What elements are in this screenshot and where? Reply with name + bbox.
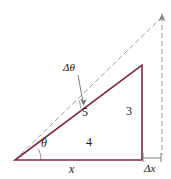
- label-theta: θ: [41, 137, 47, 149]
- label-hypotenuse-length: 5: [82, 106, 88, 118]
- geometry-figure: Δθ 5 3 θ 4 x Δx: [0, 0, 171, 179]
- theta-arc: [39, 149, 41, 160]
- label-x: x: [69, 163, 74, 175]
- delta-theta-arc: [79, 101, 81, 109]
- figure-drawing: [0, 0, 171, 179]
- label-delta-x: Δx: [144, 163, 155, 174]
- label-delta-theta: Δθ: [63, 62, 75, 73]
- label-vertical-leg-length: 3: [126, 105, 132, 117]
- label-horizontal-leg-length: 4: [86, 136, 92, 148]
